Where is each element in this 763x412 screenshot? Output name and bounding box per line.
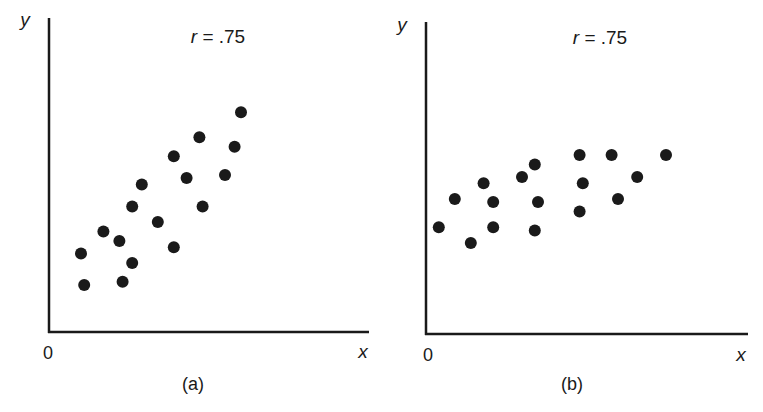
panel-b: y r = .75 0 x (b) xyxy=(395,14,748,394)
data-point xyxy=(181,172,193,184)
data-point xyxy=(126,200,138,212)
data-point xyxy=(433,221,445,233)
data-point xyxy=(136,178,148,190)
data-point xyxy=(574,149,586,161)
data-point xyxy=(113,235,125,247)
data-point xyxy=(117,276,129,288)
panel-label: (a) xyxy=(182,374,204,394)
data-point xyxy=(529,224,541,236)
panel-a: y r = .75 0 x (a) xyxy=(18,9,369,394)
y-axis-label: y xyxy=(395,14,408,35)
data-point xyxy=(126,257,138,269)
data-point xyxy=(516,171,528,183)
scatterplot-figure: y r = .75 0 x (a) y r = .75 0 x (b) xyxy=(0,0,763,412)
correlation-annotation: r = .75 xyxy=(191,26,245,47)
origin-label: 0 xyxy=(43,343,53,363)
panel-label: (b) xyxy=(561,374,583,394)
data-point xyxy=(229,141,241,153)
correlation-annotation: r = .75 xyxy=(573,27,627,48)
data-point xyxy=(577,177,589,189)
data-point xyxy=(529,158,541,170)
data-point xyxy=(219,169,231,181)
data-point xyxy=(465,237,477,249)
data-point xyxy=(532,196,544,208)
data-point xyxy=(235,106,247,118)
data-point xyxy=(193,131,205,143)
data-point xyxy=(487,221,499,233)
data-point xyxy=(168,150,180,162)
data-points xyxy=(75,106,247,291)
data-point xyxy=(574,206,586,218)
data-point xyxy=(660,149,672,161)
data-point xyxy=(197,200,209,212)
data-point xyxy=(631,171,643,183)
data-point xyxy=(168,241,180,253)
x-axis-label: x xyxy=(357,341,369,362)
r-value: = .75 xyxy=(579,27,627,48)
r-value: = .75 xyxy=(197,26,245,47)
data-point xyxy=(78,279,90,291)
data-point xyxy=(487,196,499,208)
x-axis-label: x xyxy=(735,344,747,365)
data-point xyxy=(97,226,109,238)
origin-label: 0 xyxy=(423,345,433,365)
y-axis-label: y xyxy=(18,9,31,30)
data-points xyxy=(433,149,672,249)
data-point xyxy=(606,149,618,161)
data-point xyxy=(612,193,624,205)
data-point xyxy=(478,177,490,189)
data-point xyxy=(449,193,461,205)
data-point xyxy=(75,248,87,260)
data-point xyxy=(152,216,164,228)
